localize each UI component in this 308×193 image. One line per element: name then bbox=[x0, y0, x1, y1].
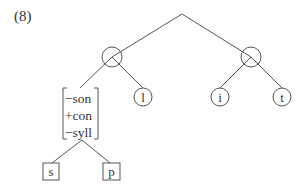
leaf-l: l bbox=[134, 88, 152, 106]
feature-syll: −syll bbox=[65, 125, 92, 140]
edge-matrix-s bbox=[52, 140, 82, 163]
edge-left-l bbox=[112, 57, 143, 88]
leaf-p: p bbox=[103, 163, 120, 180]
leaf-t: t bbox=[273, 88, 291, 106]
leaf-p-label: p bbox=[108, 164, 115, 179]
edge-matrix-p bbox=[82, 140, 110, 163]
right-bracket bbox=[94, 88, 98, 139]
leaf-l-label: l bbox=[141, 90, 145, 105]
feature-con: +con bbox=[65, 108, 92, 123]
leaf-i: i bbox=[211, 88, 229, 106]
example-number: (8) bbox=[14, 8, 32, 25]
edge-left-matrix bbox=[80, 57, 112, 88]
leaf-i-label: i bbox=[218, 90, 222, 105]
edge-right-i bbox=[220, 57, 251, 88]
tree-diagram: (8) −son +con −syll l i t s p bbox=[0, 0, 308, 193]
edge-root-right bbox=[182, 14, 251, 57]
edge-root-left bbox=[112, 14, 182, 57]
feature-son: −son bbox=[65, 91, 92, 106]
feature-matrix: −son +con −syll bbox=[63, 88, 98, 140]
leaf-t-label: t bbox=[280, 90, 284, 105]
leaf-s-label: s bbox=[48, 164, 53, 179]
leaf-s: s bbox=[43, 163, 59, 180]
edge-right-t bbox=[251, 57, 282, 88]
